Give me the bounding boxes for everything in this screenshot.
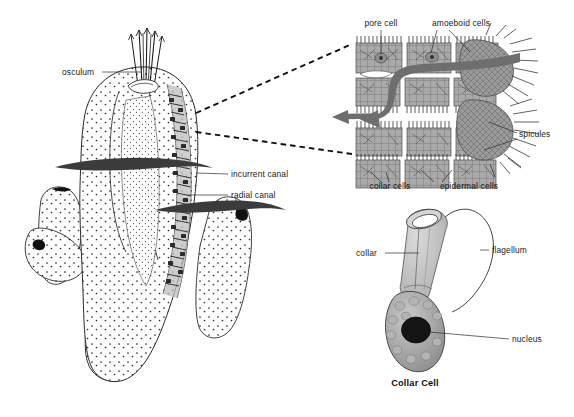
label-spicules: spicules — [519, 129, 550, 139]
label-collar: collar — [356, 248, 377, 258]
collar-cell-caption: Collar Cell — [391, 378, 439, 388]
label-epidermal-cells: epidermal cells — [440, 181, 498, 191]
label-flagellum: flagellum — [492, 245, 527, 255]
figure-canvas: pore cell amoeboid cells spicules collar… — [0, 0, 574, 417]
pore-cell — [375, 53, 387, 63]
label-radial-canal: radial canal — [231, 190, 276, 200]
label-amoeboid-cells: amoeboid cells — [432, 18, 490, 28]
label-pore-cell: pore cell — [364, 18, 397, 28]
label-incurrent-canal: incurrent canal — [231, 169, 288, 179]
label-nucleus: nucleus — [512, 334, 542, 344]
label-osculum: osculum — [62, 67, 94, 77]
label-collar-cells: collar cells — [370, 181, 411, 191]
sponge-anatomy-figure: pore cell amoeboid cells spicules collar… — [0, 0, 574, 417]
nucleus-blob — [402, 317, 431, 343]
